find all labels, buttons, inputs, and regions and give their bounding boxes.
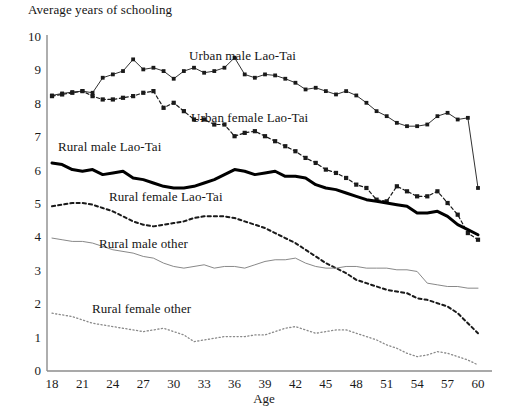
series-annotation-label: Urban male Lao-Tai: [189, 48, 296, 64]
series-marker: [253, 129, 257, 133]
series-marker: [223, 66, 227, 70]
y-axis-tick-label: 2: [35, 296, 42, 311]
series-marker: [365, 101, 369, 105]
series-marker: [243, 73, 247, 77]
series-marker: [263, 134, 267, 138]
series-marker: [354, 183, 358, 187]
series-marker: [50, 94, 54, 98]
series-marker: [162, 69, 166, 73]
series-annotation-label: Rural female other: [92, 301, 191, 317]
series-annotation-label: Rural female Lao-Tai: [109, 189, 223, 205]
series-marker: [293, 149, 297, 153]
series-marker: [425, 194, 429, 198]
x-axis-tick-labels: 182124273033363942454851545760: [46, 376, 485, 391]
series-marker: [415, 194, 419, 198]
series-marker: [354, 94, 358, 98]
series-marker: [273, 74, 277, 78]
series-marker: [436, 114, 440, 118]
series-marker: [324, 168, 328, 172]
x-axis-title: Age: [253, 391, 275, 406]
y-axis-tick-label: 10: [28, 29, 41, 44]
series-annotation-label: Rural male other: [99, 236, 188, 252]
series-marker: [445, 201, 449, 205]
x-axis-tick-label: 36: [228, 376, 242, 391]
series-marker: [90, 94, 94, 98]
series-marker: [395, 121, 399, 125]
x-axis-tick-label: 30: [167, 376, 180, 391]
series-marker: [151, 89, 155, 93]
y-axis-tick-label: 9: [35, 62, 42, 77]
y-axis-tick-label: 8: [35, 96, 42, 111]
series-marker: [344, 176, 348, 180]
series-marker: [405, 124, 409, 128]
series-marker: [182, 69, 186, 73]
y-axis-tick-label: 3: [35, 263, 42, 278]
series-marker: [476, 186, 480, 190]
series-marker: [101, 97, 105, 101]
series-marker: [141, 68, 145, 72]
series-marker: [273, 139, 277, 143]
x-axis-tick-label: 21: [76, 376, 89, 391]
series-marker: [334, 93, 338, 97]
series-marker: [161, 106, 165, 110]
series-marker: [192, 66, 196, 70]
series-marker: [70, 91, 74, 95]
x-axis-tick-label: 51: [380, 376, 393, 391]
y-axis-tick-labels: 012345678910: [28, 29, 42, 378]
y-axis-tick-label: 7: [35, 129, 42, 144]
series-marker: [446, 111, 450, 115]
x-axis-tick-label: 57: [441, 376, 455, 391]
series-marker: [364, 186, 368, 190]
y-axis-tick-label: 6: [35, 163, 42, 178]
series-marker: [395, 184, 399, 188]
x-axis-tick-label: 24: [106, 376, 120, 391]
chart-container: Average years of schooling 012345678910 …: [0, 0, 508, 410]
series-marker: [60, 92, 64, 96]
series-marker: [243, 131, 247, 135]
series-marker: [303, 156, 307, 160]
x-axis-tick-label: 54: [411, 376, 425, 391]
series-marker: [253, 76, 257, 80]
series-marker: [304, 88, 308, 92]
series-marker: [456, 118, 460, 122]
series-line: [52, 313, 478, 365]
series-marker: [111, 73, 115, 77]
series-marker: [314, 161, 318, 165]
data-series: [52, 313, 478, 365]
series-marker: [385, 114, 389, 118]
y-axis-tick-label: 4: [35, 229, 42, 244]
series-marker: [425, 123, 429, 127]
x-axis-tick-label: 48: [350, 376, 363, 391]
series-marker: [121, 96, 125, 100]
series-marker: [283, 77, 287, 81]
series-marker: [283, 144, 287, 148]
series-marker: [172, 77, 176, 81]
series-marker: [212, 69, 216, 73]
series-marker: [344, 89, 348, 93]
x-axis-tick-label: 39: [259, 376, 272, 391]
series-marker: [375, 109, 379, 113]
series-annotation-label: Rural male Lao-Tai: [58, 139, 161, 155]
series-marker: [80, 89, 84, 93]
x-axis-tick-label: 18: [46, 376, 59, 391]
series-marker: [111, 97, 115, 101]
x-axis-tick-label: 27: [137, 376, 151, 391]
series-marker: [101, 76, 105, 80]
series-marker: [182, 109, 186, 113]
series-marker: [141, 91, 145, 95]
series-marker: [456, 213, 460, 217]
x-axis-tick-label: 33: [198, 376, 211, 391]
series-marker: [202, 71, 206, 75]
series-marker: [131, 57, 135, 61]
x-axis-tick-label: 42: [289, 376, 302, 391]
x-axis-tick-label: 45: [319, 376, 332, 391]
series-marker: [405, 189, 409, 193]
series-marker: [435, 189, 439, 193]
series-marker: [466, 116, 470, 120]
series-marker: [324, 89, 328, 93]
series-marker: [232, 134, 236, 138]
data-series-group: [50, 56, 480, 365]
y-axis-tick-label: 0: [35, 363, 42, 378]
series-marker: [131, 94, 135, 98]
x-axis-tick-label: 60: [472, 376, 485, 391]
